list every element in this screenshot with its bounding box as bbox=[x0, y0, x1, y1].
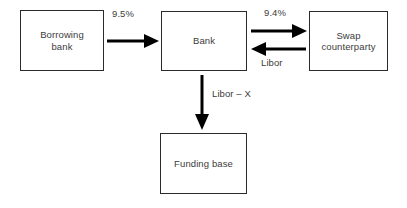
node-borrowing-bank: Borrowing bank bbox=[20, 10, 104, 71]
arrow-borrowing-to-bank bbox=[107, 34, 159, 48]
node-funding-base: Funding base bbox=[160, 133, 247, 194]
edge-label-bank-to-funding: Libor – X bbox=[212, 88, 251, 99]
node-bank: Bank bbox=[161, 11, 247, 71]
edge-label-swap-to-bank: Libor bbox=[261, 57, 283, 68]
node-borrowing-bank-label: Borrowing bank bbox=[40, 29, 84, 52]
arrow-bank-to-swap bbox=[251, 24, 307, 38]
node-bank-label: Bank bbox=[193, 35, 215, 47]
node-funding-base-label: Funding base bbox=[174, 158, 233, 170]
edge-label-borrowing-to-bank: 9.5% bbox=[112, 8, 134, 19]
edge-label-bank-to-swap: 9.4% bbox=[264, 7, 286, 18]
node-swap-counterparty-label: Swap counterparty bbox=[321, 30, 375, 53]
diagram-canvas: Borrowing bank Bank Swap counterparty Fu… bbox=[0, 0, 407, 208]
arrow-swap-to-bank bbox=[251, 42, 306, 56]
arrow-bank-to-funding bbox=[195, 75, 209, 130]
node-swap-counterparty: Swap counterparty bbox=[309, 11, 388, 71]
